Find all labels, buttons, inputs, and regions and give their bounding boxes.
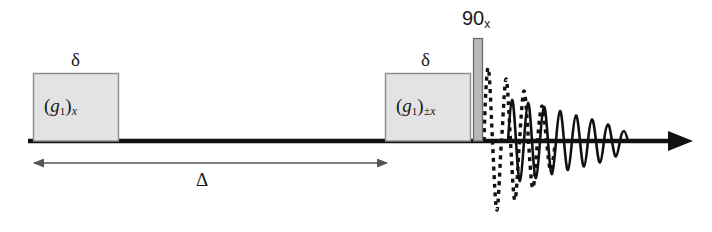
- delta-interval-label: Δ: [196, 170, 208, 189]
- gradient-right-label: (g1)±x: [396, 96, 436, 117]
- pulse-phase-text: x: [484, 17, 490, 31]
- phase-left: x: [72, 104, 77, 118]
- g-symbol-right: g: [402, 95, 412, 116]
- pulse-sequence-diagram: δ δ (g1)x (g1)±x 90x Δ: [0, 0, 712, 232]
- time-axis: [28, 131, 693, 151]
- diagram-canvas: [0, 0, 712, 232]
- rf-pulse-bar: [474, 39, 483, 142]
- rf-pulse-label: 90x: [462, 8, 490, 30]
- phase-right: ±x: [424, 104, 436, 118]
- pulse-angle-text: 90: [462, 7, 484, 29]
- g-symbol-left: g: [50, 95, 60, 116]
- delta-label-left: δ: [71, 50, 80, 69]
- delta-label-right: δ: [421, 50, 430, 69]
- gradient-left-label: (g1)x: [44, 96, 77, 117]
